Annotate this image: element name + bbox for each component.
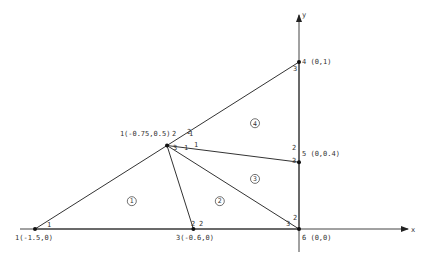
mesh-edge-2-3 [167,146,193,230]
local-number: 1 [184,144,188,152]
x-axis-label: x [411,226,415,234]
local-number: 1 [189,130,193,138]
local-number: 3 [173,144,177,152]
node-6-label: 6 (0,0) [302,234,332,242]
local-number: 2 [293,214,297,222]
local-number: 2 [199,220,203,228]
node-1-dot [33,227,37,231]
node-4-label: 4 (0,1) [302,58,332,66]
local-number: 3 [286,220,290,228]
node-4-dot [297,60,301,64]
local-number: 2 [292,144,296,152]
node-3-label: 3(-0.6,0) [176,234,214,242]
mesh-edge-1-2 [35,146,167,230]
node-2-suffix: 2 [172,130,176,138]
element-3-number: 3 [253,175,257,183]
local-number: 1 [194,141,198,149]
node-2-label: (-0.75,0.5) [124,130,170,138]
node-2-dot [165,144,169,148]
element-1-number: 1 [130,197,134,205]
node-5-label: 5 (0,0.4) [302,150,340,158]
y-axis-label: y [302,11,306,19]
element-2-number: 2 [218,197,222,205]
local-number: 3 [293,65,297,73]
node-1-label: 1(-1.5,0) [15,234,53,242]
local-number: 1 [47,221,51,229]
node-5-dot [297,160,301,164]
local-number: 3 [292,157,296,165]
node-6-dot [297,227,301,231]
finite-element-mesh-diagram: x y 1234 1(-1.5,0) 1 (-0.75,0.5) 2 3(-0.… [0,0,425,258]
element-4-number: 4 [253,120,257,128]
mesh-edge-2-6 [167,146,299,230]
local-number: 2 [191,220,195,228]
